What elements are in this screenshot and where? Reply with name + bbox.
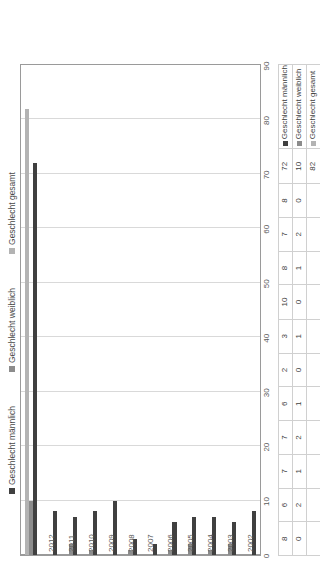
table-row-header: Geschlecht weiblich [293,65,307,149]
category-label: 2008 [126,534,135,552]
category-label: 2009 [106,534,115,552]
category-label: 2002 [246,534,255,552]
table-cell: 1 [293,387,307,421]
legend-item-label: Geschlecht weiblich [7,288,17,363]
table-row-swatch-icon [297,141,302,146]
table-cell: 7 [279,454,293,488]
plot-area-wrapper: 2002200320042005200620072008200920102011… [20,64,261,556]
table-cell: 10 [293,149,307,184]
table-cell: 6 [279,488,293,522]
data-table: 86776231087872Geschlecht männlich0212101… [278,64,318,556]
legend-swatch-icon [9,248,15,254]
axis-tick-label: 0 [262,554,271,558]
table-cell [307,184,319,218]
axis-tick-label: 50 [262,279,271,288]
bar-group [220,65,240,555]
table-cell: 1 [293,319,307,353]
axis-tick-label: 10 [262,497,271,506]
table-cell: 82 [307,149,319,184]
table-row-swatch-icon [311,141,316,146]
table-cell: 7 [279,421,293,455]
table-cell: 1 [293,454,307,488]
table-cell: 72 [279,149,293,184]
bar-group [41,65,61,555]
legend-item-male: Geschlecht männlich [7,406,17,494]
table-cell [307,217,319,251]
legend-item-female: Geschlecht weiblich [7,288,17,372]
axis-tick-label: 60 [262,225,271,234]
table-row: 82Geschlecht gesamt [307,65,319,556]
bar-group [180,65,200,555]
axis-tick-label: 90 [262,62,271,71]
category-label: 2007 [146,534,155,552]
bar-group [160,65,180,555]
table-row-header-label: Geschlecht weiblich [294,69,303,140]
table-cell: 2 [293,421,307,455]
bar-total [25,109,29,555]
legend-item-total: Geschlecht gesamt [7,172,17,254]
bar-group [200,65,220,555]
bar-chart-figure: Geschlecht männlichGeschlecht weiblichGe… [0,0,318,586]
table-cell: 0 [293,353,307,387]
table-cell: 3 [279,319,293,353]
table-cell: 10 [279,285,293,320]
chart-screenshot: Geschlecht männlichGeschlecht weiblichGe… [0,0,318,586]
table-cell: 2 [293,488,307,522]
axis-tick-label: 20 [262,443,271,452]
bar-male [33,163,37,555]
table-cell: 2 [279,353,293,387]
table-cell [307,522,319,556]
axis-tick-label: 40 [262,334,271,343]
legend-swatch-icon [9,366,15,372]
category-label: 2011 [66,535,75,552]
table-cell [307,488,319,522]
table-cell: 6 [279,387,293,421]
category-label: 2012 [46,534,55,552]
table-cell: 7 [279,217,293,251]
table-cell: 2 [293,217,307,251]
bar-group [81,65,101,555]
legend-item-label: Geschlecht männlich [7,406,17,485]
bar-group [121,65,141,555]
table-row: 86776231087872Geschlecht männlich [279,65,293,556]
axis-tick-label: 70 [262,170,271,179]
chart-legend: Geschlecht männlichGeschlecht weiblichGe… [4,64,20,494]
table-row-header-label: Geschlecht gesamt [308,71,317,139]
legend-item-label: Geschlecht gesamt [7,172,17,245]
table-cell [307,251,319,285]
value-axis-ticks: 0102030405060708090 [262,64,276,556]
bar-group [101,65,121,555]
table-cell: 0 [293,522,307,556]
table-cell [307,319,319,353]
category-label: 2006 [166,534,175,552]
axis-tick-label: 30 [262,388,271,397]
table-row-header-label: Geschlecht männlich [280,65,289,139]
table-cell: 8 [279,251,293,285]
bar-group [61,65,81,555]
plot-area: 2002200320042005200620072008200920102011… [20,64,261,556]
category-label: 2003 [226,534,235,552]
bar-group [21,65,41,555]
table-cell: 8 [279,184,293,218]
bar-group [240,65,260,555]
category-label: 2004 [206,534,215,552]
table-cell: 8 [279,522,293,556]
table-cell [307,421,319,455]
table-cell [307,454,319,488]
table-cell: 0 [293,285,307,320]
table-cell [307,285,319,320]
bar-group [141,65,161,555]
table-cell [307,387,319,421]
table-row-swatch-icon [283,141,288,146]
legend-swatch-icon [9,488,15,494]
table-cell: 0 [293,184,307,218]
table-row: 0212101012010Geschlecht weiblich [293,65,307,556]
table-row-header: Geschlecht gesamt [307,65,319,149]
category-label: 2005 [186,534,195,552]
category-label: 2010 [86,534,95,552]
table-cell [307,353,319,387]
axis-tick-label: 80 [262,116,271,125]
table-cell: 1 [293,251,307,285]
table-row-header: Geschlecht männlich [279,65,293,149]
